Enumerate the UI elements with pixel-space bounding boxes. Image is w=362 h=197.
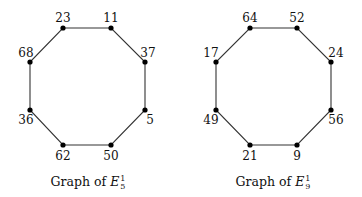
graph-caption: Graph of E19 (236, 174, 311, 191)
cycle-edges (216, 28, 331, 145)
vertex-label: 11 (103, 11, 118, 25)
vertex-dot (247, 142, 252, 147)
vertex-dot (213, 59, 218, 64)
vertex-label: 37 (140, 46, 155, 60)
vertex-dot (247, 25, 252, 30)
vertex-label: 24 (328, 46, 344, 60)
vertex-label: 50 (103, 149, 118, 163)
octagon-graph-2: 645224569214917Graph of E19 (203, 11, 344, 191)
vertex-label: 62 (55, 149, 70, 163)
vertex-dot (108, 142, 113, 147)
vertex-label: 56 (328, 113, 343, 127)
vertex-dot (294, 25, 299, 30)
octagon-graph-1: 231137550623668Graph of E15 (18, 11, 155, 191)
vertex-label: 52 (289, 11, 304, 25)
vertex-dot (108, 25, 113, 30)
vertex-label: 21 (242, 149, 257, 163)
vertex-label: 5 (146, 113, 154, 127)
graph-caption: Graph of E15 (51, 174, 126, 191)
vertex-dot (27, 59, 32, 64)
vertex-dot (60, 142, 65, 147)
vertex-label: 23 (55, 11, 70, 25)
vertex-label: 49 (203, 113, 218, 127)
graph-figure: 231137550623668Graph of E156452245692149… (0, 0, 362, 197)
vertex-label: 9 (293, 149, 301, 163)
vertex-label: 36 (18, 113, 33, 127)
vertex-dot (328, 59, 333, 64)
vertex-dot (142, 107, 147, 112)
vertex-dot (213, 107, 218, 112)
vertex-label: 68 (18, 46, 33, 60)
vertex-label: 17 (203, 46, 218, 60)
cycle-edges (30, 28, 145, 145)
vertex-dot (27, 107, 32, 112)
vertex-dot (142, 59, 147, 64)
vertex-dot (60, 25, 65, 30)
vertex-dot (328, 107, 333, 112)
vertex-label: 64 (242, 11, 258, 25)
vertex-dot (294, 142, 299, 147)
